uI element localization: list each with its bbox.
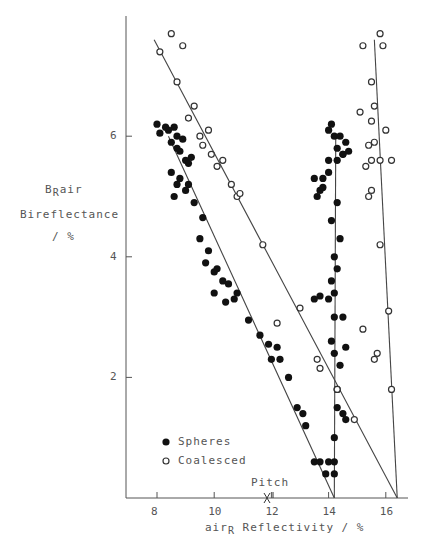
legend-coalesced-marker bbox=[163, 458, 169, 464]
sphere-point bbox=[342, 416, 349, 423]
sphere-point bbox=[276, 356, 283, 363]
sphere-point bbox=[336, 133, 343, 140]
sphere-point bbox=[336, 362, 343, 369]
sphere-point bbox=[345, 148, 352, 155]
sphere-point bbox=[268, 356, 275, 363]
y-tick-label: 2 bbox=[110, 370, 117, 383]
y-axis-label-line1: BRair bbox=[45, 183, 83, 198]
sphere-point bbox=[176, 148, 183, 155]
sphere-point bbox=[185, 181, 192, 188]
sphere-point bbox=[319, 184, 326, 191]
sphere-point bbox=[225, 280, 232, 287]
y-label-post: air bbox=[60, 183, 83, 196]
sphere-point bbox=[196, 235, 203, 242]
x-label-pre: air bbox=[205, 521, 228, 534]
legend-spheres-marker bbox=[162, 438, 169, 445]
coalesced-point bbox=[214, 163, 220, 169]
sphere-point bbox=[179, 136, 186, 143]
legend-spheres-label: Spheres bbox=[178, 435, 231, 448]
sphere-point bbox=[328, 217, 335, 224]
sphere-point bbox=[322, 470, 329, 477]
legend-coalesced-label: Coalesced bbox=[178, 454, 247, 467]
sphere-point bbox=[199, 214, 206, 221]
fit-lines bbox=[154, 40, 397, 498]
y-axis-label-line2: Bireflectance bbox=[20, 208, 119, 221]
coalesced-point bbox=[371, 356, 377, 362]
coalesced-point bbox=[389, 157, 395, 163]
sphere-point bbox=[165, 127, 172, 134]
coalesced-point bbox=[360, 326, 366, 332]
x-ticks bbox=[157, 492, 386, 498]
sphere-point bbox=[328, 338, 335, 345]
sphere-point bbox=[336, 235, 343, 242]
coalesced-point bbox=[369, 79, 375, 85]
coalesced-point bbox=[380, 43, 386, 49]
sphere-point bbox=[274, 344, 281, 351]
coalesced-point bbox=[260, 242, 266, 248]
fit-line bbox=[374, 40, 397, 498]
coalesced-point bbox=[363, 163, 369, 169]
coalesced-point bbox=[174, 79, 180, 85]
y-label-sub: R bbox=[53, 187, 60, 198]
sphere-point bbox=[191, 199, 198, 206]
sphere-point bbox=[334, 145, 341, 152]
sphere-point bbox=[342, 139, 349, 146]
x-tick-label: 14 bbox=[323, 505, 336, 518]
y-tick-label: 4 bbox=[110, 250, 117, 263]
x-label-sub: R bbox=[228, 525, 235, 536]
legend bbox=[162, 438, 169, 464]
x-label-post: Reflectivity / % bbox=[235, 521, 365, 534]
y-label-pre: B bbox=[45, 183, 53, 196]
sphere-point bbox=[331, 434, 338, 441]
x-tick-label: 10 bbox=[208, 505, 221, 518]
coalesced-point bbox=[377, 242, 383, 248]
sphere-point bbox=[334, 157, 341, 164]
sphere-point bbox=[285, 374, 292, 381]
sphere-point bbox=[339, 314, 346, 321]
sphere-point bbox=[265, 341, 272, 348]
coalesced-point bbox=[208, 151, 214, 157]
fit-line bbox=[154, 40, 397, 498]
coalesced-point bbox=[200, 142, 206, 148]
sphere-point bbox=[325, 169, 332, 176]
scatter-chart bbox=[0, 0, 433, 554]
sphere-point bbox=[222, 298, 229, 305]
sphere-point bbox=[331, 253, 338, 260]
sphere-point bbox=[334, 404, 341, 411]
sphere-point bbox=[233, 289, 240, 296]
x-axis-label: airR Reflectivity / % bbox=[205, 521, 365, 536]
sphere-point bbox=[299, 410, 306, 417]
sphere-point bbox=[334, 265, 341, 272]
coalesced-point bbox=[371, 139, 377, 145]
sphere-point bbox=[319, 175, 326, 182]
coalesced-point bbox=[197, 133, 203, 139]
sphere-point bbox=[256, 332, 263, 339]
coalesced-point bbox=[366, 194, 372, 200]
sphere-point bbox=[205, 247, 212, 254]
sphere-point bbox=[311, 175, 318, 182]
sphere-point bbox=[294, 404, 301, 411]
sphere-point bbox=[342, 344, 349, 351]
coalesced-point bbox=[369, 187, 375, 193]
sphere-point bbox=[188, 154, 195, 161]
coalesced-point bbox=[274, 320, 280, 326]
sphere-point bbox=[202, 259, 209, 266]
y-ticks bbox=[126, 136, 132, 377]
sphere-point bbox=[331, 289, 338, 296]
coalesced-point bbox=[357, 109, 363, 115]
sphere-point bbox=[328, 277, 335, 284]
coalesced-point bbox=[317, 365, 323, 371]
sphere-point bbox=[176, 175, 183, 182]
coalesced-point bbox=[157, 49, 163, 55]
sphere-point bbox=[156, 130, 163, 137]
coalesced-point bbox=[386, 308, 392, 314]
sphere-point bbox=[245, 317, 252, 324]
coalesced-point bbox=[314, 356, 320, 362]
coalesced-point bbox=[351, 417, 357, 423]
coalesced-point bbox=[168, 31, 174, 37]
coalesced-point bbox=[205, 127, 211, 133]
coalesced-point bbox=[377, 157, 383, 163]
x-tick-label: 12 bbox=[265, 505, 278, 518]
sphere-point bbox=[331, 470, 338, 477]
coalesced-point bbox=[377, 31, 383, 37]
